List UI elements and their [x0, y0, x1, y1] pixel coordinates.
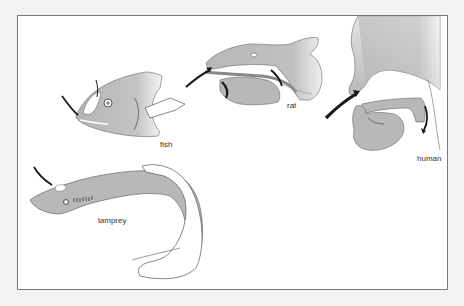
label-human: human	[417, 154, 441, 163]
rat-illustration	[186, 37, 322, 104]
fish-mouth-arrow-icon	[62, 96, 78, 115]
fish-illustration	[62, 72, 185, 137]
label-lamprey: lamprey	[98, 216, 126, 225]
human-nasal-arrow-icon	[326, 94, 356, 118]
anatomy-diagram	[0, 0, 464, 306]
lamprey-airflow-arrow-icon	[34, 167, 52, 185]
rat-airflow-arrow-icon	[186, 70, 210, 87]
human-illustration	[326, 16, 440, 150]
label-fish: fish	[160, 140, 172, 149]
label-rat: rat	[287, 101, 296, 110]
